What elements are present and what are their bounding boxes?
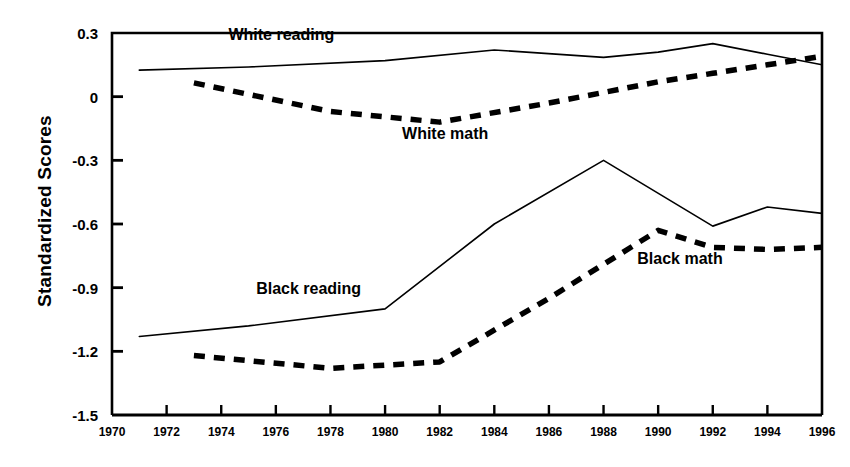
x-axis-tick-label: 1974 [208, 425, 235, 439]
x-axis-tick-label: 1990 [645, 425, 672, 439]
x-axis-tick-label: 1978 [317, 425, 344, 439]
x-axis-tick-label: 1992 [699, 425, 726, 439]
data-series-line [194, 230, 822, 368]
chart-container: Standardized Scores 0.30-0.3-0.6-0.9-1.2… [0, 0, 850, 467]
y-axis-tick-label: -1.5 [72, 407, 98, 424]
x-axis-tick-label: 1988 [590, 425, 617, 439]
x-axis-tick-label: 1994 [754, 425, 781, 439]
data-series-line [194, 56, 822, 122]
x-axis-tick-label: 1984 [481, 425, 508, 439]
x-axis-tick-label: 1982 [426, 425, 453, 439]
x-axis-tick-label: 1986 [536, 425, 563, 439]
series-annotation-label: White reading [228, 26, 334, 43]
x-axis-tick-label: 1970 [99, 425, 126, 439]
y-axis-tick-label: -0.6 [72, 216, 98, 233]
x-axis-tick-label: 1976 [262, 425, 289, 439]
series-annotation-label: Black math [637, 250, 722, 267]
series-annotation-label: White math [402, 125, 488, 142]
data-series-line [139, 44, 822, 71]
y-axis-tick-label: -0.9 [72, 280, 98, 297]
x-axis-tick-label: 1972 [153, 425, 180, 439]
y-axis-tick-label: 0.3 [77, 25, 98, 42]
x-axis-tick-label: 1996 [809, 425, 836, 439]
line-chart-plot: 0.30-0.3-0.6-0.9-1.2-1.51970197219741976… [0, 0, 850, 467]
series-annotation-label: Black reading [256, 280, 361, 297]
y-axis-tick-label: -0.3 [72, 152, 98, 169]
x-axis-tick-label: 1980 [372, 425, 399, 439]
y-axis-tick-label: -1.2 [72, 343, 98, 360]
y-axis-tick-label: 0 [90, 89, 98, 106]
